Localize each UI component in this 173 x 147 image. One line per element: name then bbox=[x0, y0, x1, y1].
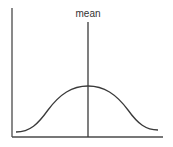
mean-label: mean bbox=[75, 8, 100, 19]
bell-curve-diagram: mean bbox=[0, 0, 173, 147]
bell-curve bbox=[16, 86, 158, 132]
